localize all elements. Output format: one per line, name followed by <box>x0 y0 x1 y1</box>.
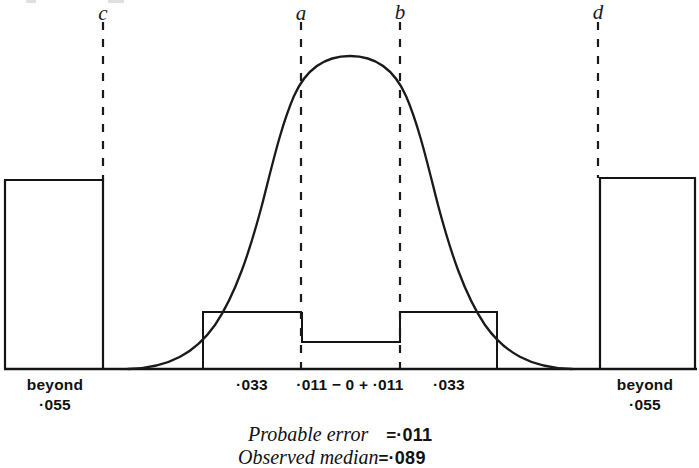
marker-label-a: a <box>286 3 316 24</box>
axis-label-right-beyond: beyond ·055 <box>595 375 695 415</box>
summary-observed-median-label: Observed median <box>238 446 379 468</box>
marker-label-c: c <box>88 3 118 24</box>
axis-label-right-033: ·033 <box>399 375 499 394</box>
axis-label-left-beyond-line2: ·055 <box>5 395 105 415</box>
axis-label-right-beyond-line2: ·055 <box>595 395 695 415</box>
axis-label-left-beyond: beyond ·055 <box>5 375 105 415</box>
normal-curve <box>128 56 572 369</box>
histogram-bar-right-beyond <box>600 178 695 369</box>
marker-label-d: d <box>583 2 613 23</box>
summary-observed-median-value: ·089 <box>388 448 425 468</box>
axis-label-left-beyond-line1: beyond <box>5 375 105 395</box>
summary-observed-median: Observed median=·089 <box>228 427 426 467</box>
marker-label-b: b <box>385 2 415 23</box>
summary-observed-median-equals: = <box>379 449 389 468</box>
histogram-bar-left-beyond <box>5 180 103 369</box>
axis-label-right-beyond-line1: beyond <box>595 375 695 395</box>
histogram-bar-center <box>302 312 400 342</box>
